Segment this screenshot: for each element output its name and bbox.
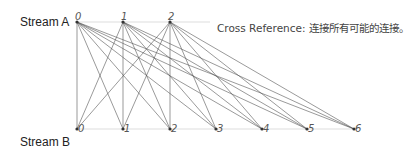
stream-b-node-label-0: 0: [78, 123, 84, 134]
stream-b-node-label-2: 2: [171, 123, 177, 134]
stream-b-node-label-3: 3: [217, 123, 223, 134]
stream-b-node-label-6: 6: [355, 123, 361, 134]
cross-reference-graph: 0120123456: [0, 0, 417, 157]
edge-a1-b4: [123, 22, 262, 129]
edge-a2-b3: [170, 22, 216, 129]
edge-a0-b5: [77, 22, 307, 129]
stream-b-node-label-4: 4: [263, 123, 269, 134]
stream-b-node-label-5: 5: [308, 123, 314, 134]
stream-a-node-label-2: 2: [168, 11, 174, 22]
edge-a2-b4: [170, 22, 262, 129]
edge-a2-b6: [170, 22, 354, 129]
edge-a1-b5: [123, 22, 307, 129]
edge-a1-b3: [123, 22, 216, 129]
stream-a-node-label-0: 0: [75, 11, 81, 22]
edge-a2-b5: [170, 22, 307, 129]
stream-a-node-label-1: 1: [121, 11, 127, 22]
stream-b-node-label-1: 1: [124, 123, 130, 134]
